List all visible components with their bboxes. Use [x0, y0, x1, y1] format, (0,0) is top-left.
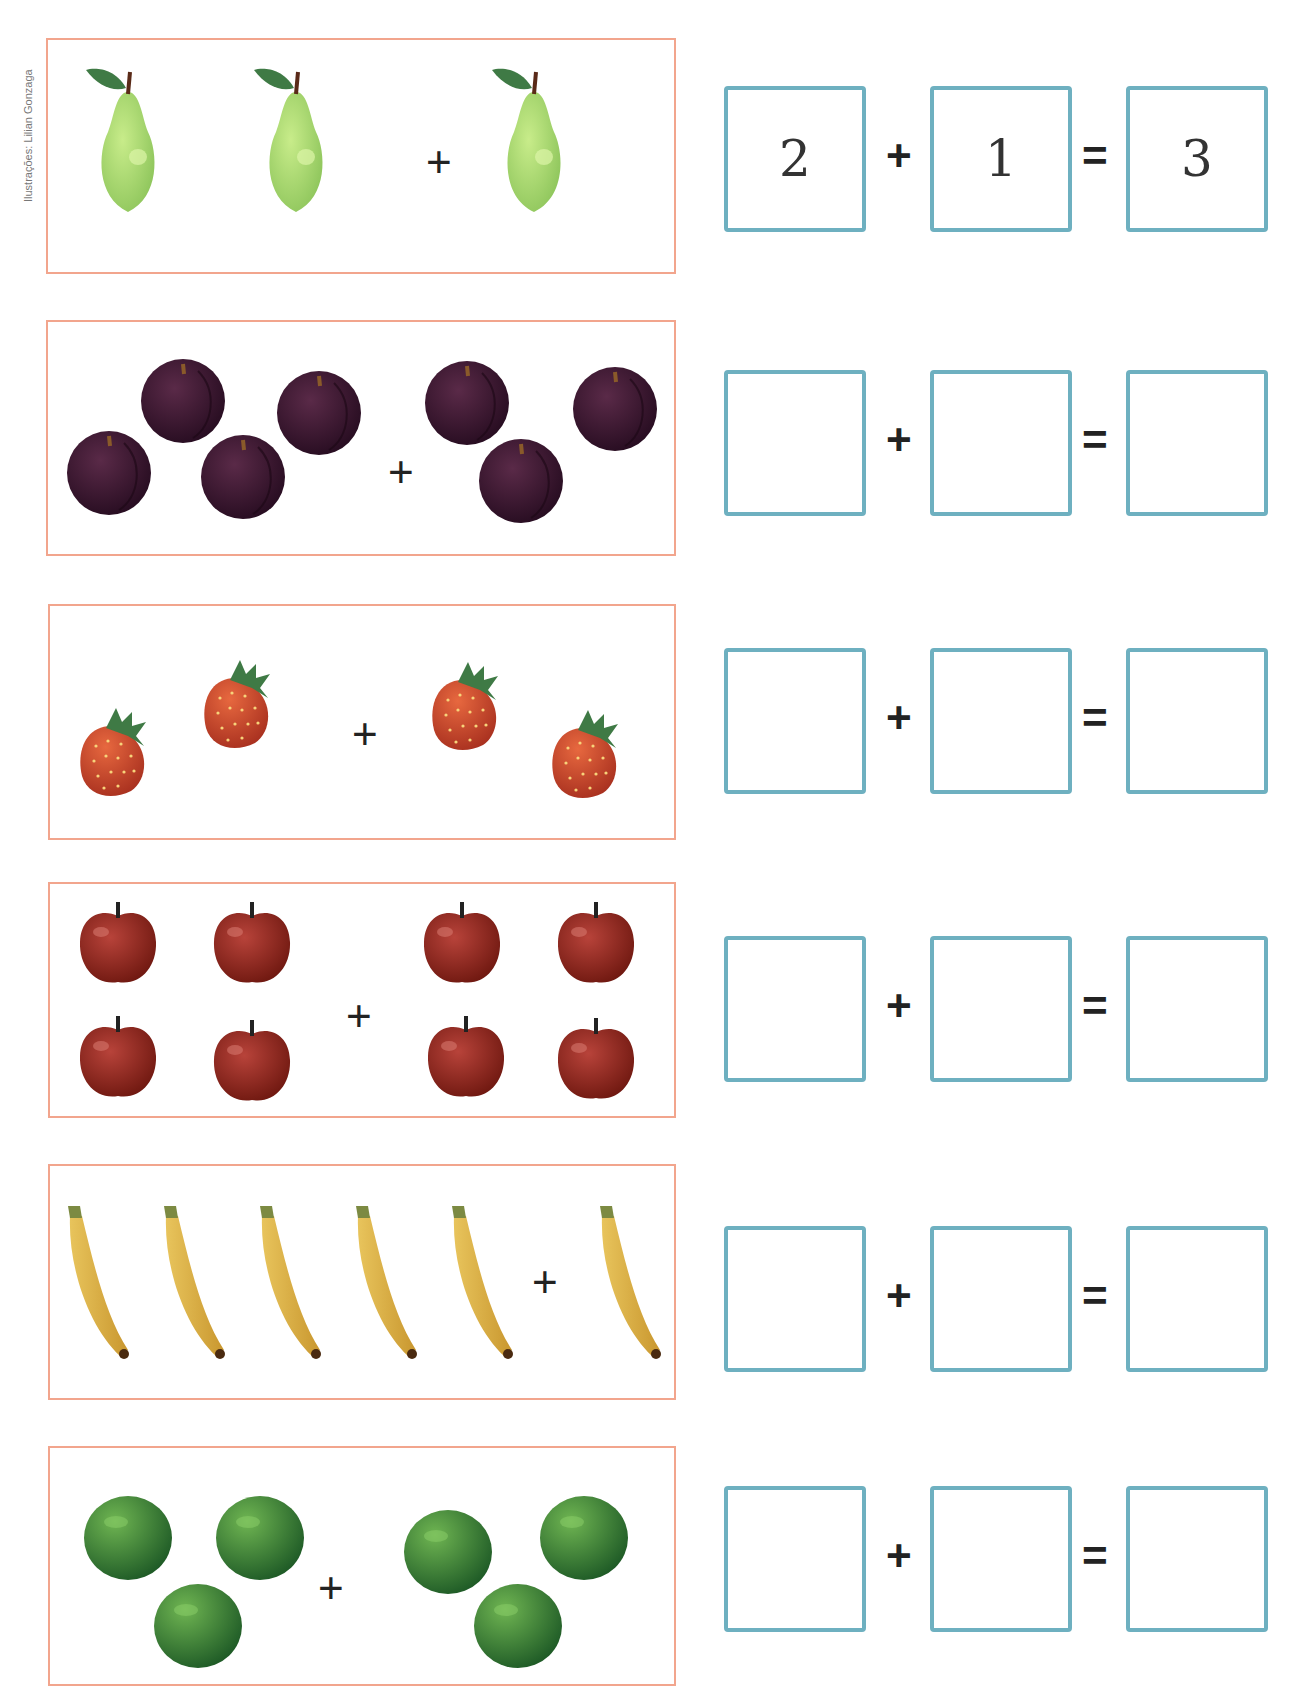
strawberry-image — [428, 660, 508, 760]
plus-operator: + — [886, 696, 912, 740]
apple-image — [554, 1018, 640, 1104]
equation-strawberries: + = — [730, 648, 1270, 798]
fruit-box-strawberries: + — [48, 604, 676, 840]
sum-box[interactable] — [1126, 936, 1268, 1082]
pear-image — [246, 62, 356, 232]
addend-a-box[interactable] — [724, 648, 866, 794]
pear-image — [484, 62, 594, 232]
plus-operator: + — [886, 1274, 912, 1318]
plus-operator: + — [886, 418, 912, 462]
equals-operator: = — [1082, 984, 1108, 1028]
plus-sign: + — [346, 994, 372, 1038]
plus-sign: + — [426, 140, 452, 184]
addend-a-box[interactable] — [724, 370, 866, 516]
strawberry-image — [76, 706, 156, 806]
plus-sign: + — [532, 1260, 558, 1304]
fruit-box-plums: + — [46, 320, 676, 556]
fruit-box-bananas: + — [48, 1164, 676, 1400]
lime-image — [150, 1580, 246, 1672]
illustration-credit: Ilustrações: Lilian Gonzaga — [20, 42, 36, 202]
equals-operator: = — [1082, 1534, 1108, 1578]
equation-apples: + = — [730, 936, 1270, 1086]
banana-image — [442, 1206, 522, 1366]
banana-image — [154, 1206, 234, 1366]
sum-box[interactable] — [1126, 370, 1268, 516]
addend-a-box[interactable] — [724, 1486, 866, 1632]
lime-image — [80, 1492, 176, 1584]
equation-pears: 2 + 1 = 3 — [730, 86, 1270, 236]
addend-a-box[interactable]: 2 — [724, 86, 866, 232]
equation-plums: + = — [730, 370, 1270, 520]
plus-operator: + — [886, 134, 912, 178]
apple-image — [76, 902, 162, 988]
sum-box[interactable] — [1126, 1226, 1268, 1372]
addend-b-box[interactable] — [930, 1226, 1072, 1372]
apple-image — [554, 902, 640, 988]
addend-b-box[interactable] — [930, 936, 1072, 1082]
lime-image — [470, 1580, 566, 1672]
equals-operator: = — [1082, 418, 1108, 462]
equation-bananas: + = — [730, 1226, 1270, 1376]
equals-operator: = — [1082, 696, 1108, 740]
banana-image — [346, 1206, 426, 1366]
addend-b-box[interactable]: 1 — [930, 86, 1072, 232]
apple-image — [420, 902, 506, 988]
addend-a-box[interactable] — [724, 1226, 866, 1372]
plum-image — [274, 368, 366, 460]
banana-image — [590, 1206, 670, 1366]
fruit-box-pears: + — [46, 38, 676, 274]
sum-box[interactable]: 3 — [1126, 86, 1268, 232]
addend-b-box[interactable] — [930, 370, 1072, 516]
apple-image — [76, 1016, 162, 1102]
apple-image — [210, 1020, 296, 1106]
banana-image — [250, 1206, 330, 1366]
sum-box[interactable] — [1126, 648, 1268, 794]
plus-sign: + — [352, 712, 378, 756]
apple-image — [424, 1016, 510, 1102]
equals-operator: = — [1082, 134, 1108, 178]
lime-image — [536, 1492, 632, 1584]
sum-box[interactable] — [1126, 1486, 1268, 1632]
strawberry-image — [200, 658, 280, 758]
fruit-box-apples: + — [48, 882, 676, 1118]
apple-image — [210, 902, 296, 988]
banana-image — [58, 1206, 138, 1366]
addend-b-box[interactable] — [930, 1486, 1072, 1632]
plus-operator: + — [886, 1534, 912, 1578]
strawberry-image — [548, 708, 628, 808]
addend-b-box[interactable] — [930, 648, 1072, 794]
equation-limes: + = — [730, 1486, 1270, 1636]
pear-image — [78, 62, 188, 232]
addend-a-box[interactable] — [724, 936, 866, 1082]
plus-sign: + — [318, 1566, 344, 1610]
plus-sign: + — [388, 450, 414, 494]
fruit-box-limes: + — [48, 1446, 676, 1686]
equals-operator: = — [1082, 1274, 1108, 1318]
lime-image — [212, 1492, 308, 1584]
plus-operator: + — [886, 984, 912, 1028]
plum-image — [476, 436, 568, 528]
plum-image — [570, 364, 662, 456]
